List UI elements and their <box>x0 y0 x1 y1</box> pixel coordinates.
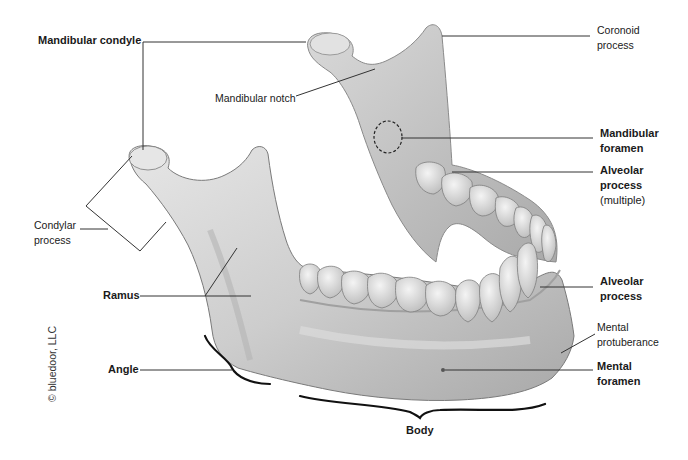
label-mandibular-notch: Mandibular notch <box>215 91 296 106</box>
label-condylar-process: Condylar process <box>34 218 76 248</box>
copyright-notice: © bluedoor, LLC <box>46 326 58 402</box>
label-mandibular-foramen: Mandibular foramen <box>600 126 659 156</box>
mental-foramen-dot <box>441 368 445 372</box>
label-mandibular-condyle: Mandibular condyle <box>38 33 141 48</box>
mandible-diagram <box>0 0 688 460</box>
label-alveolar-process-multiple: Alveolar process (multiple) <box>600 163 645 208</box>
label-mental-protuberance: Mental protuberance <box>597 320 659 350</box>
label-body: Body <box>406 423 434 438</box>
label-coronoid-process: Coronoid process <box>597 23 640 53</box>
label-alveolar-process: Alveolar process <box>600 274 643 304</box>
label-mental-foramen: Mental foramen <box>597 359 640 389</box>
label-ramus: Ramus <box>103 288 140 303</box>
label-angle: Angle <box>108 362 139 377</box>
label-alveolar-process-note: (multiple) <box>600 193 645 208</box>
